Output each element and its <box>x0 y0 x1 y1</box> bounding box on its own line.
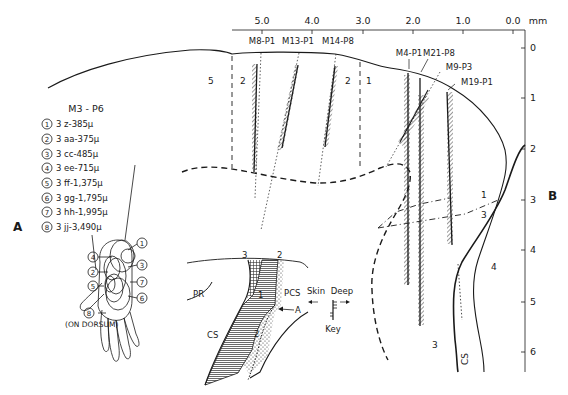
right-tick-0: 0 <box>530 42 536 53</box>
hand-callout-7: 7 <box>137 277 147 287</box>
svg-text:5: 5 <box>45 180 49 188</box>
svg-text:7: 7 <box>45 209 49 217</box>
central-sulcus-line-2 <box>474 175 505 372</box>
right-tick-4: 4 <box>530 244 536 255</box>
key-deep: Deep <box>331 286 353 296</box>
zone-label-5: 5 <box>208 76 214 86</box>
right-axis: 0 1 2 3 4 5 6 <box>521 42 536 357</box>
track-m13-p1: M13-P1 <box>261 36 314 230</box>
track-m9-p3: M9-P3 <box>386 62 472 167</box>
svg-text:7: 7 <box>140 279 144 287</box>
track-label-m14-p8: M14-P8 <box>322 36 354 46</box>
hand-callout-2: 2 <box>88 267 98 277</box>
svg-text:1: 1 <box>140 240 144 248</box>
central-sulcus-line-1 <box>453 145 525 372</box>
inset-label-area2: 2 <box>254 329 259 339</box>
cs-dotted-line <box>458 264 462 320</box>
svg-text:3 gg-1,795μ: 3 gg-1,795μ <box>56 193 108 203</box>
inset-label-area2-top: 2 <box>277 250 282 260</box>
top-tick-0: 0.0 <box>505 15 520 26</box>
track-m14-p8: M14-P8 <box>318 36 354 186</box>
zone-label-1b: 1 <box>481 190 487 200</box>
key-label: Key <box>325 324 340 334</box>
svg-text:3 aa-375μ: 3 aa-375μ <box>56 134 100 144</box>
legend-items: 13 z-385μ 23 aa-375μ 33 cc-485μ 43 ee-71… <box>42 119 108 232</box>
svg-text:4: 4 <box>45 165 50 173</box>
svg-text:8: 8 <box>87 310 91 318</box>
panel-label-a: A <box>13 220 23 234</box>
hand-callout-8: 8 <box>84 308 94 318</box>
svg-text:2: 2 <box>45 136 49 144</box>
track-label-m19-p1: M19-P1 <box>461 77 493 87</box>
svg-text:3 hh-1,995μ: 3 hh-1,995μ <box>56 207 108 217</box>
svg-text:3 ee-715μ: 3 ee-715μ <box>56 163 100 173</box>
legend: M3 - P6 13 z-385μ 23 aa-375μ 33 cc-485μ … <box>42 103 108 232</box>
svg-text:4: 4 <box>91 254 96 262</box>
right-tick-1: 1 <box>530 92 536 103</box>
right-tick-6: 6 <box>530 346 536 357</box>
zone-label-3b: 3 <box>432 340 438 350</box>
top-tick-4: 4.0 <box>304 15 319 26</box>
hand-callout-3: 3 <box>137 260 147 270</box>
svg-text:3 ff-1,375μ: 3 ff-1,375μ <box>56 178 103 188</box>
right-tick-5: 5 <box>530 296 536 307</box>
hand-callout-1: 1 <box>137 238 147 248</box>
svg-text:6: 6 <box>140 295 145 303</box>
track-label-m8-p1: M8-P1 <box>249 36 275 46</box>
legend-title: M3 - P6 <box>68 103 103 114</box>
svg-text:5: 5 <box>91 283 95 291</box>
hand-callouts: 1 4 2 3 5 7 6 8 (ON DORSUM) <box>65 238 147 329</box>
top-tick-3: 3.0 <box>355 15 370 26</box>
svg-text:3: 3 <box>140 262 144 270</box>
legend-item-6: 63 gg-1,795μ <box>42 193 108 203</box>
hand-callout-5: 5 <box>88 281 98 291</box>
svg-text:8: 8 <box>45 224 49 232</box>
zone-label-2a: 2 <box>240 76 246 86</box>
track-m8-p1: M8-P1 <box>249 36 275 198</box>
svg-text:2: 2 <box>91 269 95 277</box>
panel-label-b: B <box>548 189 557 203</box>
right-tick-2: 2 <box>530 143 536 154</box>
on-dorsum-note: (ON DORSUM) <box>65 320 118 329</box>
inset-label-cs: CS <box>207 330 218 340</box>
svg-text:6: 6 <box>45 195 50 203</box>
top-tick-5: 5.0 <box>254 15 269 26</box>
track-label-m21-p8: M21-P8 <box>423 48 455 58</box>
svg-text:3: 3 <box>45 151 49 159</box>
inset-label-pcs: PCS <box>284 288 300 298</box>
track-label-m13-p1: M13-P1 <box>282 36 314 46</box>
legend-item-1: 13 z-385μ <box>42 119 94 129</box>
zone-label-3a: 3 <box>481 210 487 220</box>
legend-item-4: 43 ee-715μ <box>42 163 100 173</box>
legend-item-2: 23 aa-375μ <box>42 134 100 144</box>
right-tick-3: 3 <box>530 194 536 205</box>
key: Skin Deep Key <box>307 286 353 334</box>
inset-label-area3: 3 <box>242 250 247 260</box>
zone-label-1a: 1 <box>366 76 372 86</box>
hand-callout-6: 6 <box>137 293 147 303</box>
inset-label-area1: 1 <box>258 290 263 300</box>
top-axis-unit: mm <box>529 15 548 26</box>
track-label-m9-p3: M9-P3 <box>446 62 472 72</box>
svg-text:1: 1 <box>45 121 49 129</box>
svg-text:3 cc-485μ: 3 cc-485μ <box>56 149 99 159</box>
key-skin: Skin <box>307 286 325 296</box>
inset-label-a: A <box>295 305 301 315</box>
inset-label-pr: PR <box>193 289 204 299</box>
hand-callout-4: 4 <box>88 252 98 262</box>
inset-section: 3 2 1 2 PR PCS CS A <box>187 250 308 385</box>
svg-text:3 z-385μ: 3 z-385μ <box>56 119 94 129</box>
legend-item-3: 33 cc-485μ <box>42 149 99 159</box>
label-cs-right: CS <box>460 353 470 365</box>
legend-item-5: 53 ff-1,375μ <box>42 178 103 188</box>
cortical-map-figure: 5.0 4.0 3.0 2.0 1.0 0.0 mm 0 1 2 3 4 5 6… <box>0 0 568 395</box>
zone-label-2b: 2 <box>345 76 351 86</box>
legend-item-7: 73 hh-1,995μ <box>42 207 108 217</box>
svg-text:3 jj-3,490μ: 3 jj-3,490μ <box>56 222 102 232</box>
track-label-m4-p1: M4-P1 <box>396 48 422 58</box>
zone-borders <box>182 56 503 360</box>
zone-label-4: 4 <box>491 262 497 272</box>
top-tick-1: 1.0 <box>455 15 470 26</box>
top-tick-2: 2.0 <box>405 15 420 26</box>
legend-item-8: 83 jj-3,490μ <box>42 222 102 232</box>
